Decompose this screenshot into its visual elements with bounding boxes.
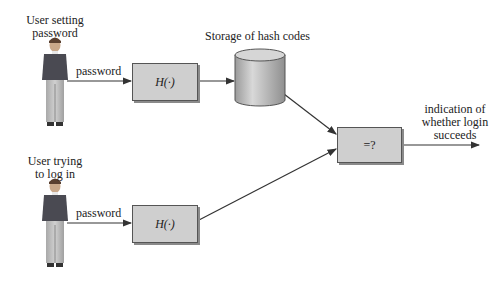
label-line: password [14,27,96,40]
label-line: to log in [14,168,96,181]
hash-function-box-bottom: H(·) [132,205,198,243]
actor-label-login: User trying to log in [14,155,96,181]
arrow-hash-to-compare [199,149,336,220]
compare-box: =? [337,127,402,163]
storage-cylinder-icon [235,49,285,106]
person-icon-login [42,179,68,268]
output-label: indication of whether login succeeds [410,103,500,142]
label-line: succeeds [410,129,500,142]
hash-function-box-top: H(·) [132,63,198,101]
storage-label: Storage of hash codes [205,30,310,43]
edge-label-password-top: password [76,65,121,78]
actor-label-setting: User setting password [14,14,96,40]
arrow-storage-to-compare [284,94,336,134]
edge-label-password-bottom: password [76,207,121,220]
person-icon-setting [42,38,68,127]
